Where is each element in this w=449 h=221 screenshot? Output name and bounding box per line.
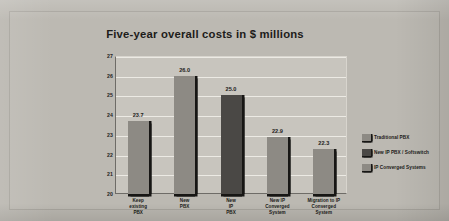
bar-group[interactable]: 22.3: [313, 56, 334, 194]
bar-value-label: 26.0: [179, 67, 190, 73]
bar[interactable]: [174, 76, 195, 194]
bar-value-label: 22.3: [318, 140, 329, 146]
bar-value-label: 22.9: [272, 128, 283, 134]
chart-legend: Traditional PBXNew IP PBX / SoftswitchIP…: [362, 130, 449, 175]
bar-value-label: 25.0: [226, 86, 237, 92]
plot-wrapper: 23.726.025.022.922.3: [115, 56, 347, 194]
legend-swatch: [362, 134, 371, 141]
legend-label: Traditional PBX: [374, 135, 409, 140]
scanned-page: Five-year overall costs in $ millions 20…: [0, 0, 449, 221]
x-axis-label: Migration to IPConvergedSystem: [294, 198, 354, 216]
y-axis-tick-label: 24: [107, 112, 113, 118]
bar-group[interactable]: 23.7: [128, 56, 149, 194]
y-axis-tick-label: 26: [107, 73, 113, 79]
x-axis-label-line: PBX: [108, 210, 168, 216]
bar-group[interactable]: 25.0: [221, 56, 242, 194]
y-axis-tick-label: 27: [107, 53, 113, 59]
legend-swatch: [362, 164, 371, 171]
bar[interactable]: [267, 137, 288, 194]
legend-label: IP Converged Systems: [374, 165, 426, 170]
bar[interactable]: [221, 95, 242, 194]
legend-label: New IP PBX / Softswitch: [374, 150, 429, 155]
x-axis-label-line: System: [294, 210, 354, 216]
y-axis-tick-label: 23: [107, 132, 113, 138]
bar[interactable]: [128, 121, 149, 194]
y-axis-tick-label: 25: [107, 92, 113, 98]
legend-swatch: [362, 149, 371, 156]
chart-title: Five-year overall costs in $ millions: [45, 28, 365, 40]
bar[interactable]: [313, 149, 334, 194]
chart-panel: Five-year overall costs in $ millions 20…: [9, 11, 440, 210]
y-axis: 2021222324252627: [88, 56, 113, 194]
bar-group[interactable]: 26.0: [174, 56, 195, 194]
bar-group[interactable]: 22.9: [267, 56, 288, 194]
y-axis-tick-label: 22: [107, 152, 113, 158]
bar-value-label: 23.7: [133, 112, 144, 118]
y-axis-tick-label: 21: [107, 171, 113, 177]
legend-item[interactable]: Traditional PBX: [362, 130, 449, 145]
y-axis-tick-label: 20: [107, 191, 113, 197]
legend-item[interactable]: New IP PBX / Softswitch: [362, 145, 449, 160]
legend-item[interactable]: IP Converged Systems: [362, 160, 449, 175]
